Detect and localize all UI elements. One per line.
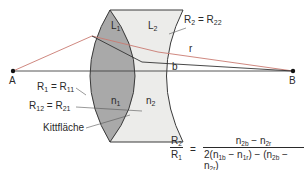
- fraction-bar: [203, 147, 304, 148]
- label-r12-eq: R12 = R21: [29, 100, 71, 112]
- leader-r1: [76, 88, 86, 95]
- label-a: A: [9, 75, 16, 86]
- formula: R2 R1 = n2b − n2r 2(n1b − n1r) − (n2b − …: [170, 135, 304, 167]
- label-r2-eq: R2 = R22: [184, 14, 222, 26]
- label-kittflaeche: Kittfläche: [43, 122, 85, 133]
- formula-rhs: n2b − n2r 2(n1b − n1r) − (n2b − n2r): [203, 135, 304, 170]
- label-b-ray: b: [172, 61, 178, 72]
- fraction-bar: [170, 147, 183, 148]
- formula-lhs: R2 R1: [170, 135, 183, 160]
- equals-sign: =: [190, 144, 196, 155]
- label-r1-eq: R1 = R11: [37, 81, 74, 93]
- point-b-dot: [291, 69, 295, 73]
- point-a-dot: [11, 69, 15, 73]
- label-b: B: [289, 75, 296, 86]
- label-r-ray: r: [189, 43, 193, 54]
